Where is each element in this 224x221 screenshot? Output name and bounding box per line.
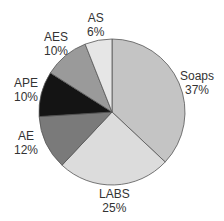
label-pct: 10%: [14, 90, 38, 104]
label-labs: LABS 25%: [99, 187, 130, 215]
label-name: AS: [87, 11, 104, 25]
label-pct: 25%: [99, 201, 130, 215]
label-ae: AE 12%: [14, 129, 38, 157]
label-name: Soaps: [180, 69, 214, 83]
label-aes: AES 10%: [44, 30, 68, 58]
label-name: AE: [14, 129, 38, 143]
label-as: AS 6%: [87, 11, 104, 39]
label-ape: APE 10%: [14, 76, 38, 104]
label-pct: 37%: [180, 83, 214, 97]
label-pct: 10%: [44, 44, 68, 58]
label-name: LABS: [99, 187, 130, 201]
label-name: AES: [44, 30, 68, 44]
label-pct: 6%: [87, 25, 104, 39]
label-name: APE: [14, 76, 38, 90]
label-soaps: Soaps 37%: [180, 69, 214, 97]
label-pct: 12%: [14, 143, 38, 157]
